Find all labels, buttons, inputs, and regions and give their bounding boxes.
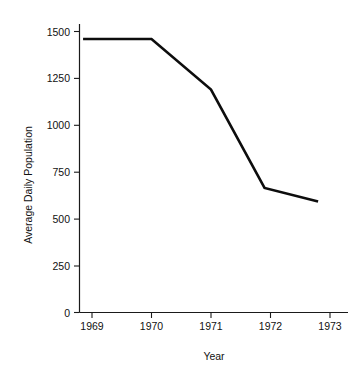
y-tick-label-1250: 1250 [47, 72, 71, 84]
y-tick-label-0: 0 [64, 307, 70, 319]
x-tick-label-1973: 1973 [318, 320, 342, 332]
y-tick-label-250: 250 [52, 260, 70, 272]
x-axis-title: Year [203, 350, 225, 362]
x-tick-label-1971: 1971 [199, 320, 223, 332]
x-tick-label-1972: 1972 [259, 320, 283, 332]
line-chart: 1500 1250 1000 750 500 250 0 1969 1970 1… [0, 0, 358, 372]
y-tick-label-1500: 1500 [47, 26, 71, 38]
y-axis-title: Average Daily Population [22, 126, 34, 244]
y-tick-label-750: 750 [52, 166, 70, 178]
chart-canvas: 1500 1250 1000 750 500 250 0 1969 1970 1… [0, 0, 358, 372]
y-tick-label-1000: 1000 [47, 119, 71, 131]
data-series-average-daily-population [83, 39, 318, 202]
y-tick-label-500: 500 [52, 213, 70, 225]
x-tick-label-1970: 1970 [140, 320, 164, 332]
x-tick-label-1969: 1969 [80, 320, 104, 332]
